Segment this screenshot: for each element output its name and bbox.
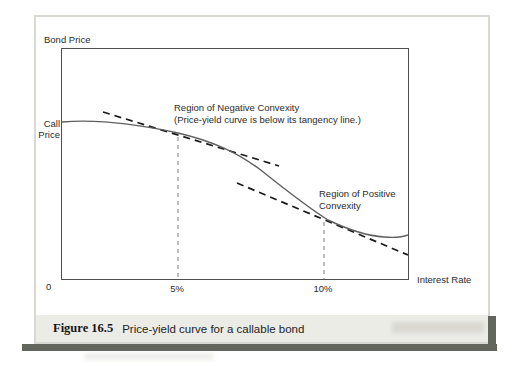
figure-caption-text: Price-yield curve for a callable bond [122,323,304,335]
drop-shadow-right [488,316,496,344]
annotation-negative-convexity: Region of Negative Convexity (Price-yiel… [174,102,361,125]
price-yield-chart [62,49,408,279]
plot-area: Region of Negative Convexity (Price-yiel… [61,48,409,280]
x-tick-5pct: 5% [170,283,184,294]
drop-shadow-bottom [22,344,497,351]
price-yield-curve [62,121,408,237]
call-price-line2: Price [32,129,60,140]
annotation-negative-line2: (Price-yield curve is below its tangency… [174,114,361,126]
call-price-label: Call Price [32,118,60,140]
x-tick-10pct: 10% [313,283,332,294]
annotation-positive-line1: Region of Positive [319,188,396,200]
annotation-positive-convexity: Region of Positive Convexity [319,188,396,211]
annotation-positive-line2: Convexity [319,200,396,212]
x-tick-origin: 0 [46,281,51,292]
figure-number: Figure 16.5 [53,321,113,336]
figure-box: Bond Price Call Price Region of Negative… [34,15,490,344]
x-axis-title: Interest Rate [417,274,471,285]
call-price-line1: Call [32,118,60,129]
scan-bleed-through-artifact [84,353,214,360]
y-axis-title: Bond Price [44,34,90,45]
annotation-negative-line1: Region of Negative Convexity [174,102,361,114]
scan-bleed-through-artifact [392,322,484,333]
